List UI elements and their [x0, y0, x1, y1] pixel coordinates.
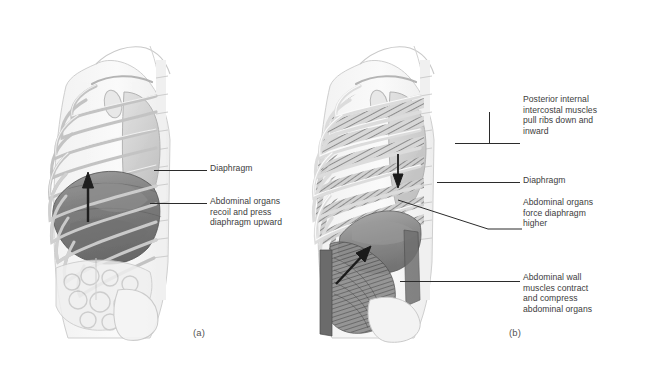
leader-b-intercostals-riser: [489, 112, 490, 144]
leader-b-intercostals: [455, 143, 520, 144]
callout-a-diaphragm: Diaphragm: [210, 163, 330, 174]
callout-b-abdominal-organs: Abdominal organs force diaphragm higher: [523, 197, 641, 229]
leader-a-diaphragm: [154, 170, 207, 171]
panel-label-a: (a): [193, 327, 205, 338]
leader-a-abdominal-organs: [150, 203, 207, 204]
panel-b-illustration: [314, 46, 434, 342]
callout-b-intercostals: Posterior internal intercostal muscles p…: [523, 94, 641, 136]
leader-b-abdominal-organs-diagonal: [396, 196, 524, 236]
leader-b-diaphragm: [437, 182, 520, 183]
callout-b-diaphragm: Diaphragm: [523, 175, 641, 186]
panel-label-b: (b): [509, 327, 521, 338]
callout-a-abdominal-organs: Abdominal organs recoil and press diaphr…: [210, 196, 334, 228]
leader-b-abdominal-wall: [400, 281, 520, 282]
callout-b-abdominal-wall: Abdominal wall muscles contract and comp…: [523, 272, 641, 314]
